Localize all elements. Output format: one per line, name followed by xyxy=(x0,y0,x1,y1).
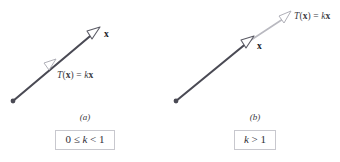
label-transform-a: T(x) = kx xyxy=(57,70,93,80)
caption-b: (b) xyxy=(170,112,340,122)
origin-dot-a xyxy=(11,99,16,104)
label-vector-x-a: x xyxy=(104,29,109,39)
label-transform-b: T(x) = kx xyxy=(294,11,330,21)
vector-x-shaft-b xyxy=(176,42,248,101)
panel-b: x T(x) = kx (b) k > 1 xyxy=(170,0,340,162)
condition-wrap-b: k > 1 xyxy=(170,130,340,150)
condition-box-b: k > 1 xyxy=(234,130,276,150)
diagram-a xyxy=(0,0,170,110)
condition-wrap-a: 0 ≤ k < 1 xyxy=(0,130,170,150)
origin-dot-b xyxy=(174,99,179,104)
vector-tx-arrowhead-a xyxy=(44,59,56,70)
caption-a: (a) xyxy=(0,112,170,122)
vector-tx-shaft-b xyxy=(248,17,286,42)
panel-a: x T(x) = kx (a) 0 ≤ k < 1 xyxy=(0,0,170,162)
vector-x-shaft-a xyxy=(13,32,95,101)
condition-box-a: 0 ≤ k < 1 xyxy=(55,130,114,150)
label-vector-x-b: x xyxy=(257,41,262,51)
figure-scalar-multiplication: x T(x) = kx (a) 0 ≤ k < 1 xyxy=(0,0,340,162)
